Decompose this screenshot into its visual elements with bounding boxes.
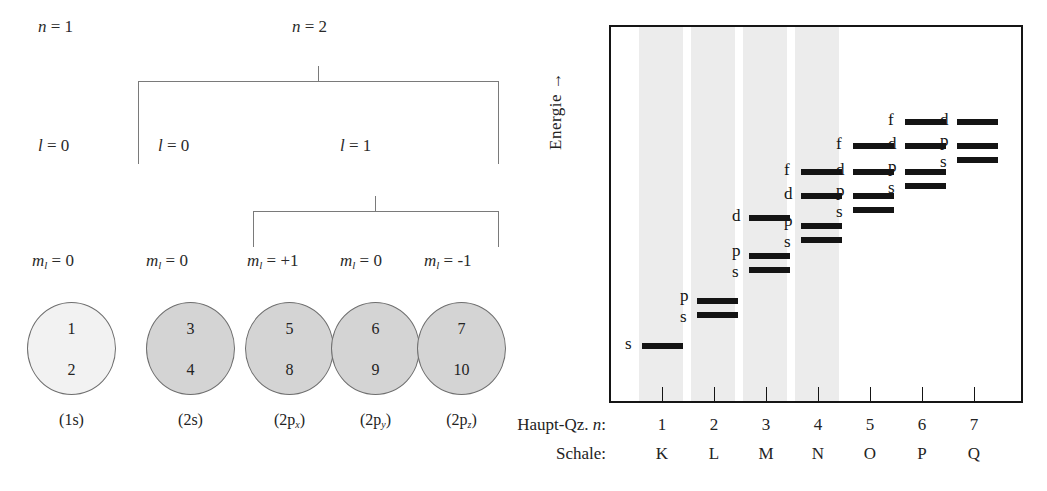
energy-level-bar-3s: [749, 267, 790, 273]
figure-root: n = 1 n = 2 l = 0 l = 0 l = 1 ml = 0 ml …: [0, 0, 1047, 491]
l-label-n2-p: l = 1: [340, 137, 371, 154]
x-tick-2: [714, 387, 715, 401]
axis-row-shell-label: Schale:: [500, 444, 606, 464]
energy-level-bar-4p: [801, 223, 842, 229]
bracket-stem-l1: [375, 196, 376, 212]
axis-shell-value-2: L: [699, 444, 729, 464]
electron-number: 10: [418, 361, 505, 379]
l-label-n1: l = 0: [38, 137, 69, 154]
energy-level-label-6f: f: [888, 111, 894, 128]
energy-level-bar-7p: [957, 143, 998, 149]
orbital-caption-1s: (1s): [27, 411, 116, 429]
l-label-n2-s: l = 0: [158, 137, 189, 154]
energy-level-bar-6s: [905, 183, 946, 189]
ml-label-2s: ml = 0: [146, 252, 188, 271]
axis-shell-value-7: Q: [959, 444, 989, 464]
orbital-caption-2pz: (2pz): [417, 411, 506, 430]
energy-level-label-4f: f: [784, 161, 790, 178]
orbital-circle-1s: 1 2: [27, 302, 116, 395]
chart-plot-area: spsdpsfdpsfdpsfdpsdps: [609, 25, 1023, 403]
energy-level-label-2p: p: [680, 287, 689, 304]
x-tick-7: [974, 387, 975, 401]
axis-shell-value-6: P: [907, 444, 937, 464]
electron-number: 5: [246, 320, 333, 338]
axis-n-value-2: 2: [699, 415, 729, 435]
axis-n-value-4: 4: [803, 415, 833, 435]
bracket-n2-to-l: [138, 81, 499, 164]
axis-n-value-1: 1: [647, 415, 677, 435]
electron-number: 8: [246, 361, 333, 379]
energy-level-label-5s: s: [836, 203, 843, 220]
energy-level-label-6d: d: [888, 135, 897, 152]
energy-level-label-3p: p: [732, 242, 741, 259]
energy-level-label-6s: s: [888, 179, 895, 196]
ml-label-2py: ml = 0: [340, 252, 382, 271]
energy-level-label-7s: s: [940, 153, 947, 170]
energy-level-label-4p: p: [784, 212, 793, 229]
energy-level-label-5d: d: [836, 161, 845, 178]
axis-n-value-3: 3: [751, 415, 781, 435]
axis-n-value-6: 6: [907, 415, 937, 435]
orbital-circle-2py: 6 9: [331, 302, 420, 395]
energy-level-bar-7d: [957, 119, 998, 125]
electron-number: 2: [28, 361, 115, 379]
electron-number: 4: [147, 361, 234, 379]
energy-level-diagram: Energie → spsdpsfdpsfdpsfdpsdps Haupt-Qz…: [560, 0, 1047, 491]
x-tick-4: [818, 387, 819, 401]
energy-level-label-6p: p: [888, 158, 897, 175]
orbital-circle-2pz: 7 10: [417, 302, 506, 395]
energy-level-label-4d: d: [784, 185, 793, 202]
energy-level-label-7d: d: [940, 111, 949, 128]
x-tick-5: [870, 387, 871, 401]
bracket-l1-to-ml: [253, 211, 499, 247]
energy-level-bar-5s: [853, 207, 894, 213]
shell-band-4: [795, 27, 839, 401]
energy-level-label-1s: s: [625, 335, 632, 352]
axis-shell-value-1: K: [647, 444, 677, 464]
axis-shell-value-3: M: [751, 444, 781, 464]
energy-level-label-7p: p: [940, 132, 949, 149]
electron-number: 1: [28, 320, 115, 338]
x-tick-3: [766, 387, 767, 401]
shell-band-3: [743, 27, 787, 401]
axis-shell-value-4: N: [803, 444, 833, 464]
orbital-caption-2s: (2s): [146, 411, 235, 429]
energy-level-bar-2p: [697, 298, 738, 304]
x-tick-6: [922, 387, 923, 401]
orbital-caption-2py: (2py): [331, 411, 420, 430]
energy-level-bar-7s: [957, 157, 998, 163]
axis-n-value-7: 7: [959, 415, 989, 435]
electron-number: 7: [418, 320, 505, 338]
y-axis-label: Energie →: [546, 0, 566, 150]
n-label-2: n = 2: [292, 18, 327, 35]
energy-level-label-5f: f: [836, 135, 842, 152]
axis-n-value-5: 5: [855, 415, 885, 435]
orbital-circle-2px: 5 8: [245, 302, 334, 395]
energy-level-bar-4s: [801, 237, 842, 243]
n-label-1: n = 1: [38, 18, 73, 35]
energy-level-bar-2s: [697, 312, 738, 318]
shell-band-2: [691, 27, 735, 401]
energy-level-label-2s: s: [680, 308, 687, 325]
axis-shell-value-5: O: [855, 444, 885, 464]
energy-level-label-3d: d: [732, 207, 741, 224]
electron-number: 9: [332, 361, 419, 379]
axis-row-n-label: Haupt-Qz. n:: [500, 415, 606, 435]
bracket-stem-n2: [318, 66, 319, 82]
energy-level-label-4s: s: [784, 233, 791, 250]
orbital-caption-2px: (2px): [245, 411, 334, 430]
energy-level-bar-1s: [642, 343, 683, 349]
energy-level-label-3s: s: [732, 263, 739, 280]
quantum-number-tree-diagram: n = 1 n = 2 l = 0 l = 0 l = 1 ml = 0 ml …: [0, 0, 560, 491]
ml-label-2pz: ml = -1: [424, 252, 472, 271]
ml-label-1s: ml = 0: [32, 252, 74, 271]
electron-number: 6: [332, 320, 419, 338]
energy-level-bar-3p: [749, 253, 790, 259]
energy-level-label-5p: p: [836, 182, 845, 199]
electron-number: 3: [147, 320, 234, 338]
ml-label-2px: ml = +1: [247, 252, 299, 271]
x-tick-1: [662, 387, 663, 401]
orbital-circle-2s: 3 4: [146, 302, 235, 395]
